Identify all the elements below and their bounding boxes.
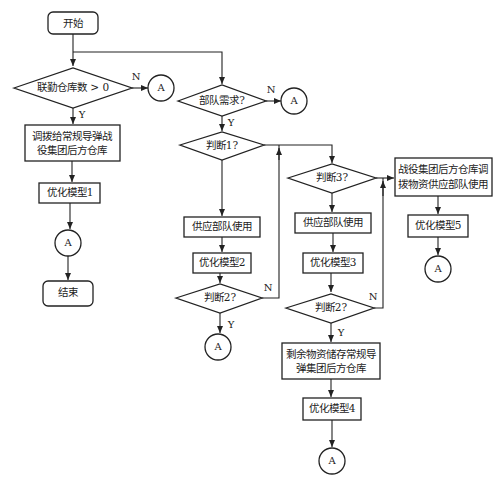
- svg-text:N: N: [369, 291, 378, 302]
- connector-a-5: A: [319, 448, 345, 474]
- process-remaining-storage: 剩余物资储存常规导 弹集团后方仓库: [282, 343, 380, 379]
- process-supply-troops-mid: 供应部队使用: [295, 213, 371, 233]
- connector-a-3: A: [281, 88, 307, 114]
- svg-text:N: N: [132, 71, 141, 82]
- svg-text:联勤仓库数 > 0: 联勤仓库数 > 0: [37, 81, 109, 93]
- svg-text:A: A: [327, 455, 336, 466]
- svg-text:役集团后方仓库: 役集团后方仓库: [37, 144, 107, 156]
- svg-text:判断2?: 判断2?: [315, 301, 348, 313]
- svg-text:判断2?: 判断2?: [204, 291, 237, 303]
- svg-text:部队需求?: 部队需求?: [199, 94, 245, 106]
- svg-text:优化模型2: 优化模型2: [199, 256, 246, 268]
- edge-judge2-no-loop: [262, 145, 279, 298]
- svg-text:A: A: [289, 95, 298, 106]
- edge-judge1-right: [264, 145, 332, 163]
- svg-text:结束: 结束: [58, 286, 79, 298]
- svg-text:A: A: [156, 82, 165, 93]
- svg-text:供应部队使用: 供应部队使用: [303, 216, 363, 228]
- svg-text:调拨给常规导弹战: 调拨给常规导弹战: [32, 130, 113, 142]
- svg-text:A: A: [63, 237, 72, 248]
- svg-text:战役集团后方仓库调: 战役集团后方仓库调: [398, 163, 488, 175]
- svg-text:弹集团后方仓库: 弹集团后方仓库: [296, 362, 366, 374]
- decision-judge-3: 判断3?: [288, 164, 376, 193]
- svg-text:剩余物资储存常规导: 剩余物资储存常规导: [286, 348, 376, 360]
- process-opt-model-1: 优化模型1: [39, 183, 100, 203]
- process-campaign-allocate: 战役集团后方仓库调 拨物资供应部队使用: [395, 158, 492, 196]
- svg-text:A: A: [433, 263, 442, 274]
- flowchart: 开始 联勤仓库数 > 0 N A Y 调拨给常规导弹战 役集团后方仓库 优化模型…: [0, 0, 502, 486]
- svg-text:供应部队使用: 供应部队使用: [192, 220, 252, 232]
- connector-a-1: A: [148, 75, 174, 101]
- process-allocate: 调拨给常规导弹战 役集团后方仓库: [25, 125, 120, 161]
- start-terminal: 开始: [48, 12, 98, 34]
- svg-text:Y: Y: [227, 319, 235, 330]
- svg-text:Y: Y: [227, 117, 235, 128]
- svg-text:优化模型4: 优化模型4: [309, 402, 356, 414]
- svg-text:优化模型3: 优化模型3: [310, 256, 357, 268]
- svg-text:拨物资供应部队使用: 拨物资供应部队使用: [398, 178, 488, 190]
- svg-text:判断1?: 判断1?: [206, 139, 239, 151]
- connector-a-2: A: [55, 230, 81, 256]
- svg-text:Y: Y: [78, 109, 86, 120]
- process-opt-model-3: 优化模型3: [303, 253, 363, 273]
- svg-text:优化模型5: 优化模型5: [415, 219, 462, 231]
- end-terminal: 结束: [43, 281, 93, 306]
- decision-judge-1: 判断1?: [180, 132, 264, 160]
- svg-text:优化模型1: 优化模型1: [47, 186, 94, 198]
- decision-judge-2-left: 判断2?: [176, 284, 262, 313]
- edge-judge2mid-no-loop: [374, 178, 383, 308]
- process-opt-model-2: 优化模型2: [193, 253, 251, 273]
- process-opt-model-5: 优化模型5: [408, 215, 468, 237]
- connector-a-6: A: [425, 256, 451, 282]
- svg-text:A: A: [213, 341, 222, 352]
- decision-judge-2-mid: 判断2?: [286, 294, 374, 323]
- decision-linked-warehouses: 联勤仓库数 > 0: [14, 68, 132, 108]
- svg-text:N: N: [264, 282, 273, 293]
- svg-text:开始: 开始: [63, 17, 84, 29]
- process-supply-troops-left: 供应部队使用: [184, 217, 260, 237]
- connector-a-4: A: [205, 334, 231, 360]
- svg-text:N: N: [267, 84, 276, 95]
- decision-troop-demand: 部队需求?: [178, 85, 266, 116]
- svg-text:Y: Y: [337, 327, 345, 338]
- process-opt-model-4: 优化模型4: [303, 398, 361, 420]
- svg-text:判断3?: 判断3?: [316, 171, 349, 183]
